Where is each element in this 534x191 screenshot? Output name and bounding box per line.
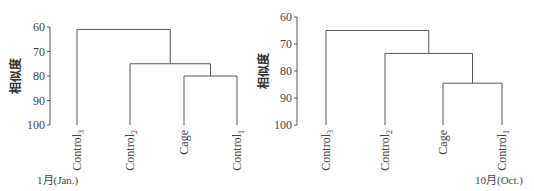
y-tick-label: 100: [27, 118, 45, 132]
dendrogram-branch: [326, 31, 429, 126]
caption-oct: 10月(Oct.): [475, 171, 523, 187]
dendrogram-branch: [385, 53, 473, 125]
leaf-label: Control2: [378, 130, 394, 171]
dendrogram-0: 60708090100相似度Control3Control2CageContro…: [8, 20, 246, 171]
leaf-label: Control2: [123, 130, 139, 171]
dendrogram-1: 60708090100相似度Control3Control2CageContro…: [256, 10, 511, 171]
y-tick-label: 70: [280, 37, 292, 51]
y-axis-label: 相似度: [256, 52, 271, 89]
y-tick-label: 70: [33, 45, 45, 59]
caption-jan: 1月(Jan.): [37, 171, 78, 187]
leaf-label: Cage: [177, 130, 191, 155]
dendrogram-branch: [184, 76, 237, 125]
y-tick-label: 90: [33, 94, 45, 108]
y-tick-label: 100: [274, 118, 292, 132]
leaf-label: Control3: [70, 130, 86, 171]
y-tick-label: 80: [280, 64, 292, 78]
leaf-label: Control1: [230, 130, 246, 171]
dendrogram-branch: [77, 29, 170, 125]
dendrogram-branch: [130, 64, 211, 125]
y-tick-label: 60: [280, 10, 292, 24]
y-tick-label: 80: [33, 69, 45, 83]
y-tick-label: 90: [280, 91, 292, 105]
leaf-label: Control1: [495, 130, 511, 171]
leaf-label: Control3: [319, 130, 335, 171]
dendrogram-figure: 60708090100相似度Control3Control2CageContro…: [0, 0, 534, 191]
leaf-label: Cage: [436, 130, 450, 155]
y-tick-label: 60: [33, 20, 45, 34]
dendrogram-branch: [443, 83, 502, 125]
y-axis-label: 相似度: [8, 57, 23, 94]
